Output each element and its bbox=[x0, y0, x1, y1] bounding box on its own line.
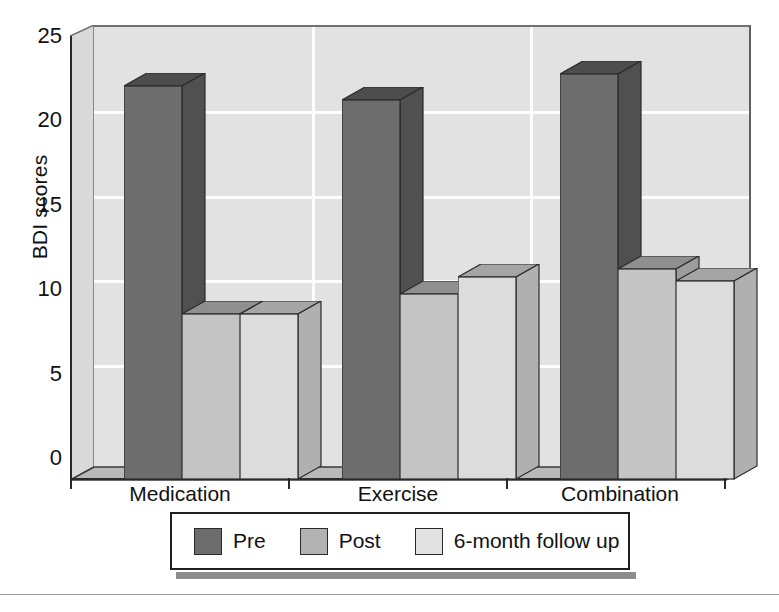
x-tick-mark-3 bbox=[724, 478, 726, 489]
legend-label-post: Post bbox=[339, 529, 381, 553]
legend-swatch-pre bbox=[194, 528, 222, 555]
legend-label-followup: 6-month follow up bbox=[454, 529, 620, 553]
x-label-exercise: Exercise bbox=[333, 482, 463, 506]
legend-item-pre: Pre bbox=[194, 528, 300, 555]
legend-label-pre: Pre bbox=[233, 529, 266, 553]
bar-combination-pre bbox=[560, 73, 618, 479]
legend-item-followup: 6-month follow up bbox=[415, 528, 654, 555]
legend-shadow bbox=[176, 572, 636, 579]
y-tick-label-5: 5 bbox=[16, 363, 62, 385]
y-tick-label-20: 20 bbox=[16, 109, 62, 131]
bar-combination-followup bbox=[676, 280, 734, 479]
x-tick-mark-2 bbox=[506, 478, 508, 489]
bar-exercise-pre bbox=[342, 99, 400, 479]
legend-swatch-post bbox=[300, 528, 328, 555]
y-tick-label-10: 10 bbox=[16, 278, 62, 300]
y-axis-ticks: 25 20 15 10 5 0 bbox=[12, 0, 62, 500]
x-tick-mark-0 bbox=[70, 478, 72, 489]
y-tick-label-15: 15 bbox=[16, 194, 62, 216]
bar-medication-pre bbox=[124, 85, 182, 479]
y-axis-line bbox=[70, 36, 72, 480]
plot-area bbox=[70, 25, 750, 480]
x-tick-mark-1 bbox=[288, 478, 290, 489]
plot-left-wall bbox=[70, 25, 94, 480]
x-label-medication: Medication bbox=[110, 482, 250, 506]
legend-swatch-followup bbox=[415, 528, 443, 555]
legend-item-post: Post bbox=[300, 528, 415, 555]
chart-legend: Pre Post 6-month follow up bbox=[170, 512, 630, 570]
bar-exercise-followup bbox=[458, 276, 516, 479]
bar-medication-followup bbox=[240, 313, 298, 479]
y-tick-label-25: 25 bbox=[16, 25, 62, 47]
y-tick-label-0: 0 bbox=[16, 447, 62, 469]
bar-chart-figure: BDI scores 25 20 15 10 5 0 bbox=[0, 0, 779, 612]
bar-exercise-post bbox=[400, 293, 458, 479]
bar-medication-post bbox=[182, 313, 240, 479]
bar-combination-post bbox=[618, 268, 676, 479]
x-label-combination: Combination bbox=[540, 482, 700, 506]
page-bottom-rule bbox=[0, 594, 779, 595]
